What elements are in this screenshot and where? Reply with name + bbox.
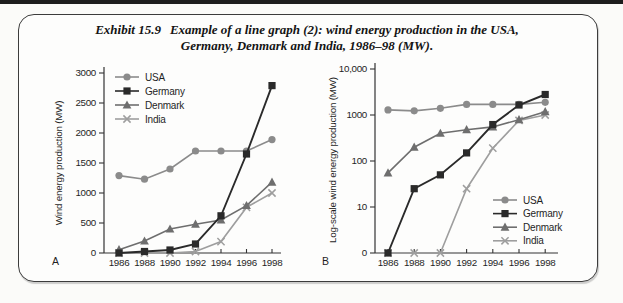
page: Exhibit 15.9Example of a line graph (2):… [0, 0, 623, 303]
marker-square [115, 249, 122, 256]
legend-label: Denmark [145, 100, 185, 111]
y-tick-label: 10 [357, 201, 368, 212]
figure-title-line1: Exhibit 15.9Example of a line graph (2):… [18, 22, 596, 38]
figure-title-line2: Germany, Denmark and India, 1986–98 (MW)… [18, 38, 596, 54]
legend: USAGermanyDenmarkIndia [493, 195, 563, 247]
legend-label: Germany [145, 86, 185, 97]
marker-square [268, 82, 275, 89]
marker-square [141, 248, 148, 255]
marker-circle [463, 101, 470, 108]
y-tick-label: 0 [362, 247, 368, 258]
series-line [119, 182, 272, 250]
x-tick-label: 1994 [211, 257, 232, 268]
marker-circle [384, 106, 391, 113]
series-denmark [384, 107, 550, 176]
legend-item-india: India [493, 235, 544, 246]
legend-item-germany: Germany [493, 208, 563, 219]
marker-square [411, 185, 418, 192]
marker-square [437, 171, 444, 178]
marker-square [489, 121, 496, 128]
y-tick-label: 100 [352, 155, 368, 166]
marker-circle [268, 136, 275, 143]
x-tick-label: 1990 [430, 257, 451, 268]
marker-square [463, 149, 470, 156]
legend: USAGermanyDenmarkIndia [115, 72, 185, 125]
marker-circle [141, 176, 148, 183]
marker-circle [123, 73, 130, 80]
y-tick-label: 1000 [75, 187, 96, 198]
marker-circle [192, 147, 199, 154]
legend-item-germany: Germany [115, 86, 185, 97]
legend-label: USA [523, 195, 543, 206]
marker-square [192, 240, 199, 247]
marker-circle [437, 105, 444, 112]
figure-title-text: Example of a line graph (2): wind energy… [170, 22, 519, 37]
x-tick-label: 1996 [509, 257, 530, 268]
marker-square [166, 246, 173, 253]
y-tick-label: 1000 [346, 109, 367, 120]
marker-square [515, 101, 522, 108]
x-tick-label: 1992 [185, 257, 206, 268]
marker-circle [489, 101, 496, 108]
marker-square [384, 249, 391, 256]
marker-circle [542, 99, 549, 106]
x-tick-label: 1992 [456, 257, 477, 268]
x-tick-label: 1988 [404, 257, 425, 268]
y-tick-label: 500 [81, 217, 97, 228]
y-axis-title: Wind energy production (MW) [53, 101, 64, 226]
legend-item-india: India [115, 114, 166, 125]
x-tick-label: 1994 [482, 257, 503, 268]
series-line [388, 115, 545, 253]
marker-square [217, 212, 224, 219]
marker-x [268, 189, 275, 196]
marker-triangle [410, 143, 419, 151]
chart-linear: 0500100015002000250030001986198819901992… [35, 55, 320, 285]
legend-item-usa: USA [115, 72, 165, 83]
y-tick-label: 10,000 [339, 63, 368, 74]
marker-x [463, 185, 470, 192]
legend-label: India [523, 235, 544, 246]
panel-a-label: A [52, 255, 59, 267]
marker-circle [501, 196, 508, 203]
legend-item-denmark: Denmark [115, 100, 185, 111]
legend-label: Germany [523, 208, 563, 219]
marker-x [489, 145, 496, 152]
figure-title: Exhibit 15.9Example of a line graph (2):… [18, 22, 596, 54]
marker-circle [217, 147, 224, 154]
marker-triangle [140, 236, 149, 244]
x-ticks: 1986198819901992199419961998 [378, 249, 557, 268]
marker-square [501, 210, 508, 217]
marker-circle [411, 107, 418, 114]
y-tick-label: 1500 [75, 157, 96, 168]
y-axis-title: Log-scale wind energy production (MW) [327, 77, 338, 243]
chart-log: 010100100010,000198619881990199219941996… [325, 55, 617, 285]
x-tick-label: 1998 [262, 257, 283, 268]
series-line [119, 86, 272, 253]
exhibit-label: Exhibit 15.9 [95, 22, 161, 37]
x-tick-label: 1998 [535, 257, 556, 268]
series-germany [115, 82, 275, 257]
legend-label: India [145, 114, 166, 125]
marker-circle [166, 165, 173, 172]
marker-x [217, 238, 224, 245]
legend-label: Denmark [523, 222, 563, 233]
y-ticks: 010100100010,000 [339, 63, 375, 258]
marker-triangle [268, 178, 277, 186]
x-tick-label: 1996 [236, 257, 257, 268]
page-top-rule [0, 0, 623, 4]
legend-item-usa: USA [493, 195, 543, 206]
x-tick-label: 1986 [378, 257, 399, 268]
y-ticks: 050010001500200025003000 [75, 67, 104, 258]
x-tick-label: 1990 [160, 257, 181, 268]
legend-item-denmark: Denmark [493, 222, 563, 233]
marker-circle [115, 172, 122, 179]
y-tick-label: 2500 [75, 97, 96, 108]
marker-square [542, 91, 549, 98]
y-tick-label: 3000 [75, 67, 96, 78]
x-tick-label: 1988 [134, 257, 155, 268]
y-tick-label: 2000 [75, 127, 96, 138]
panel-b-label: B [322, 255, 329, 267]
marker-square [243, 150, 250, 157]
legend-label: USA [145, 72, 165, 83]
marker-square [123, 87, 130, 94]
